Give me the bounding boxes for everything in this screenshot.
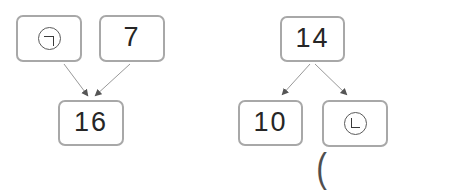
arrow-giyeok-to-16 <box>64 64 88 96</box>
number-label: 7 <box>123 24 140 51</box>
nieun-glyph <box>351 118 360 128</box>
box-addend-7: 7 <box>99 15 165 62</box>
arrow-14-to-nieun <box>315 64 347 95</box>
giyeok-glyph <box>44 36 54 46</box>
worksheet-canvas: 7 16 14 10 ( <box>0 0 450 196</box>
number-label: 10 <box>253 109 287 136</box>
box-sum-16: 16 <box>58 100 124 146</box>
arrow-7-to-16 <box>95 64 130 96</box>
box-part-nieun <box>322 100 388 147</box>
box-addend-giyeok <box>16 15 82 62</box>
box-whole-14: 14 <box>280 16 345 62</box>
circled-nieun-icon <box>344 112 367 135</box>
box-part-10: 10 <box>238 100 303 146</box>
answer-open-paren: ( <box>316 148 327 188</box>
circled-giyeok-icon <box>38 27 61 50</box>
arrow-14-to-10 <box>282 64 310 95</box>
number-label: 16 <box>74 109 108 136</box>
number-label: 14 <box>295 25 329 52</box>
